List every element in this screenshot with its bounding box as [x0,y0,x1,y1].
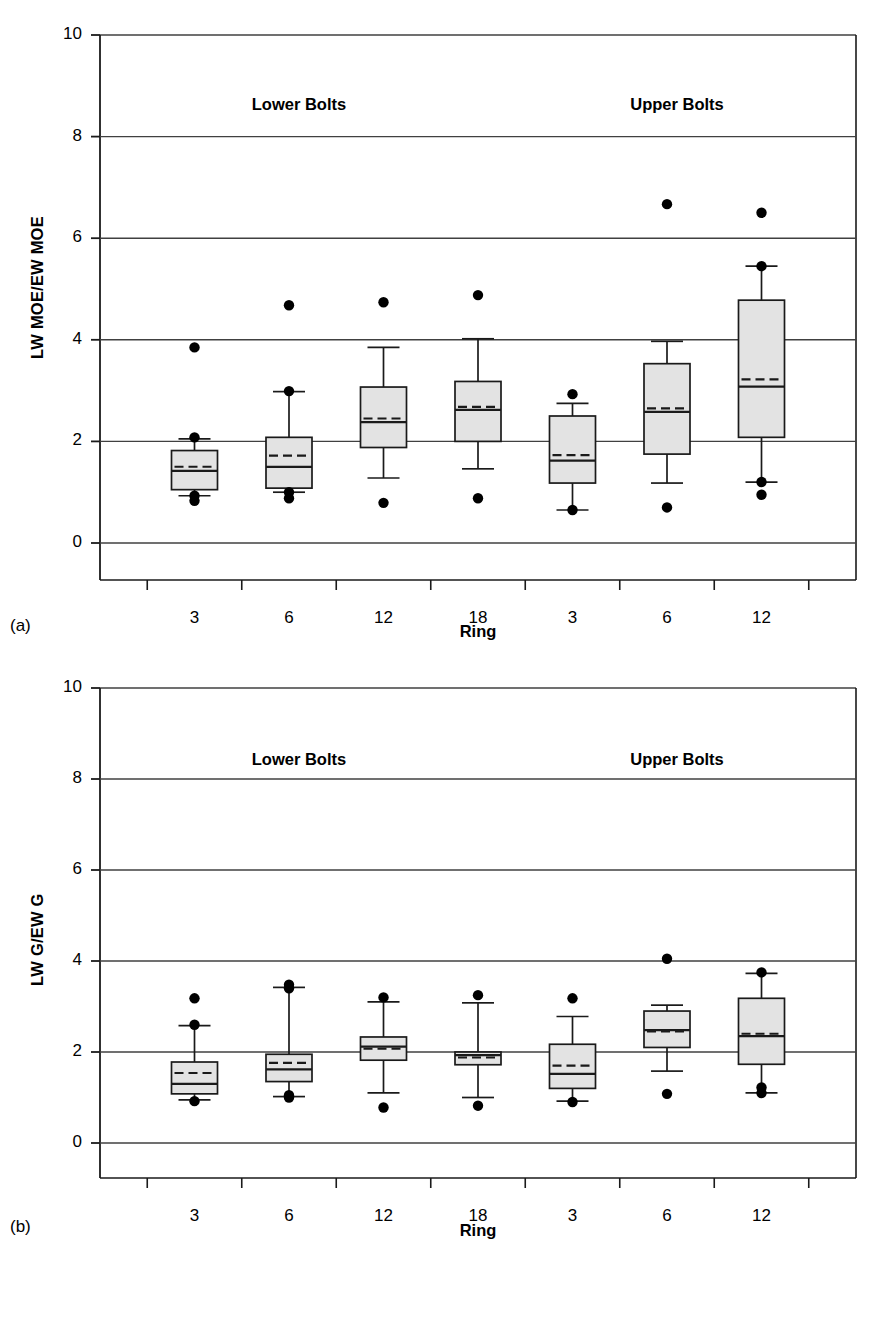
panel-b-y-tick-label: 8 [38,768,82,788]
box-body [266,437,312,488]
outlier-point [284,386,294,396]
panel-a-x-tick-label: 3 [165,608,225,628]
box-upper-bolts-ring-6 [644,954,690,1100]
figure-boxplots: LW MOE/EW MOE Ring Lower Bolts Upper Bol… [0,0,875,1336]
outlier-point [567,1097,577,1107]
outlier-point [473,1100,483,1110]
outlier-point [378,1102,388,1112]
panel-b-x-tick-label: 6 [637,1206,697,1226]
outlier-point [473,493,483,503]
box-upper-bolts-ring-12 [739,967,785,1098]
box-upper-bolts-ring-3 [550,389,596,515]
box-body [172,1062,218,1094]
outlier-point [567,389,577,399]
panel-b-x-tick-label: 3 [543,1206,603,1226]
panel-a-x-tick-label: 3 [543,608,603,628]
outlier-point [473,290,483,300]
outlier-point [662,502,672,512]
outlier-point [189,993,199,1003]
panel-a-x-tick-label: 12 [354,608,414,628]
box-lower-bolts-ring-18 [455,990,501,1111]
box-upper-bolts-ring-6 [644,199,690,513]
box-body [455,381,501,441]
box-lower-bolts-ring-3 [172,993,218,1106]
panel-b-x-tick-label: 12 [354,1206,414,1226]
outlier-point [473,990,483,1000]
outlier-point [189,432,199,442]
panel-a-y-tick-label: 8 [38,126,82,146]
panel-b-y-tick-label: 0 [38,1132,82,1152]
outlier-point [662,1089,672,1099]
panel-a-x-tick-label: 6 [637,608,697,628]
box-body [361,387,407,447]
box-lower-bolts-ring-12 [361,297,407,508]
outlier-point [756,208,766,218]
panel-b-y-tick-label: 10 [38,677,82,697]
panel-a: LW MOE/EW MOE Ring Lower Bolts Upper Bol… [0,0,875,660]
panel-a-group-label-lower-bolts: Lower Bolts [229,95,369,114]
panel-a-y-tick-label: 6 [38,227,82,247]
box-body [550,416,596,483]
panel-a-group-label-upper-bolts: Upper Bolts [607,95,747,114]
box-lower-bolts-ring-18 [455,290,501,504]
outlier-point [756,490,766,500]
panel-a-x-tick-label: 18 [448,608,508,628]
panel-a-y-tick-label: 0 [38,532,82,552]
outlier-point [284,1092,294,1102]
outlier-point [378,992,388,1002]
panel-b-y-tick-label: 4 [38,950,82,970]
panel-b: LW G/EW G Ring Lower Bolts Upper Bolts (… [0,655,875,1336]
box-body [739,998,785,1064]
box-upper-bolts-ring-12 [739,208,785,500]
panel-b-x-tick-label: 18 [448,1206,508,1226]
panel-a-y-tick-label: 10 [38,24,82,44]
outlier-point [567,993,577,1003]
box-body [266,1054,312,1081]
panel-a-y-tick-label: 2 [38,430,82,450]
outlier-point [756,967,766,977]
box-upper-bolts-ring-3 [550,993,596,1107]
outlier-point [567,505,577,515]
outlier-point [756,261,766,271]
panel-a-x-tick-label: 6 [259,608,319,628]
outlier-point [662,199,672,209]
panel-b-group-label-lower-bolts: Lower Bolts [229,750,369,769]
box-lower-bolts-ring-6 [266,979,312,1102]
outlier-point [189,496,199,506]
panel-b-y-tick-label: 6 [38,859,82,879]
panel-b-group-label-upper-bolts: Upper Bolts [607,750,747,769]
panel-a-tag: (a) [10,616,31,636]
panel-b-y-axis-label: LW G/EW G [28,893,47,986]
box-lower-bolts-ring-12 [361,992,407,1113]
box-lower-bolts-ring-3 [172,342,218,506]
outlier-point [189,342,199,352]
box-lower-bolts-ring-6 [266,300,312,503]
outlier-point [756,477,766,487]
box-body [739,300,785,437]
outlier-point [284,300,294,310]
panel-b-x-tick-label: 3 [165,1206,225,1226]
outlier-point [378,498,388,508]
panel-a-y-tick-label: 4 [38,329,82,349]
outlier-point [284,983,294,993]
outlier-point [662,954,672,964]
panel-b-x-tick-label: 12 [732,1206,792,1226]
outlier-point [189,1096,199,1106]
panel-b-y-tick-label: 2 [38,1041,82,1061]
outlier-point [756,1088,766,1098]
panel-b-tag: (b) [10,1217,31,1237]
outlier-point [189,1020,199,1030]
outlier-point [284,493,294,503]
panel-a-x-tick-label: 12 [732,608,792,628]
panel-b-x-tick-label: 6 [259,1206,319,1226]
outlier-point [378,297,388,307]
